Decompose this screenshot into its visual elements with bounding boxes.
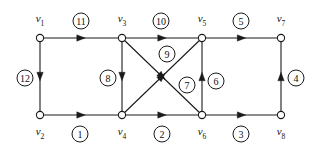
edge-label-e8[interactable]: 8 [100, 70, 117, 87]
vertex-label-index: 1 [41, 19, 45, 28]
vertex-label-v2: v2 [36, 125, 45, 140]
graph-node-v1[interactable] [36, 34, 43, 41]
graph-node-v7[interactable] [277, 34, 284, 41]
graph-node-v6[interactable] [198, 111, 205, 118]
graph-edge[interactable] [126, 112, 199, 118]
edge-arrowhead [119, 72, 125, 81]
vertex-label-v8: v8 [277, 125, 286, 140]
vertex-label-v7: v7 [277, 12, 286, 27]
vertex-label-v3: v3 [118, 12, 127, 27]
edge-arrowhead [77, 112, 86, 118]
edge-label-e6[interactable]: 6 [208, 73, 225, 90]
edge-label-e10[interactable]: 10 [153, 13, 170, 30]
graph-edge[interactable] [119, 42, 125, 112]
vertex-label-index: 4 [123, 132, 127, 141]
edge-label-e11[interactable]: 11 [73, 13, 90, 30]
edge-arrowhead [158, 35, 167, 41]
edge-label-e4[interactable]: 4 [288, 70, 305, 87]
graph-node-v2[interactable] [36, 111, 43, 118]
graph-node-v3[interactable] [118, 34, 125, 41]
vertex-label-index: 7 [282, 19, 286, 28]
vertex-label-v5: v5 [198, 12, 207, 27]
vertex-label-index: 8 [282, 132, 286, 141]
graph-edge[interactable] [206, 112, 278, 118]
edge-label-e7[interactable]: 7 [179, 77, 196, 94]
graph-edge[interactable] [278, 42, 284, 112]
edge-arrowhead [278, 72, 284, 81]
graph-edge[interactable] [206, 35, 278, 41]
edge-arrowhead [37, 72, 43, 81]
vertex-label-index: 6 [203, 132, 207, 141]
edge-label-e3[interactable]: 3 [233, 126, 250, 143]
graph-node-v8[interactable] [277, 111, 284, 118]
graph-edge[interactable] [126, 35, 199, 41]
edge-arrowhead [158, 112, 167, 118]
vertex-label-v6: v6 [198, 125, 207, 140]
edge-label-e1[interactable]: 1 [72, 126, 89, 143]
edge-label-e9[interactable]: 9 [159, 46, 176, 63]
edge-label-e2[interactable]: 2 [154, 126, 171, 143]
graph-node-v4[interactable] [118, 111, 125, 118]
edge-arrowhead [77, 35, 86, 41]
graph-edge[interactable] [44, 112, 119, 118]
edge-arrowhead [237, 35, 246, 41]
vertex-label-index: 3 [123, 19, 127, 28]
vertex-label-v4: v4 [118, 125, 127, 140]
vertex-label-index: 5 [203, 19, 207, 28]
diagram-canvas: v1v3v5v7v2v4v6v8123456789101112 [0, 0, 320, 154]
edge-label-e5[interactable]: 5 [233, 13, 250, 30]
edge-label-e12[interactable]: 12 [17, 70, 34, 87]
edge-arrowhead [237, 112, 246, 118]
vertex-label-index: 2 [41, 132, 45, 141]
vertex-label-v1: v1 [36, 12, 45, 27]
graph-edge[interactable] [37, 42, 43, 112]
graph-node-v5[interactable] [198, 34, 205, 41]
edge-arrowhead [199, 72, 205, 81]
graph-edge[interactable] [44, 35, 119, 41]
graph-edge[interactable] [199, 42, 205, 112]
